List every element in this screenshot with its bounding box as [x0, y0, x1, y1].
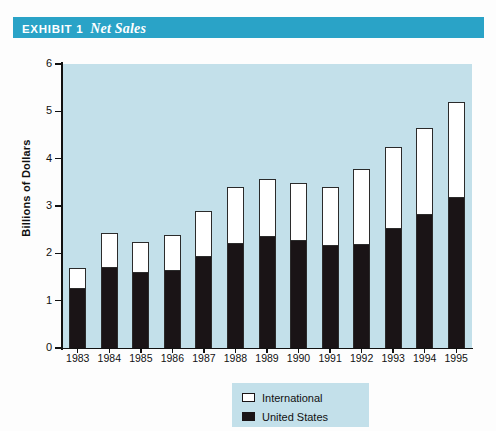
bar-segment-united-states [259, 237, 276, 348]
x-axis-tick-label: 1995 [436, 352, 476, 364]
bar-segment-united-states [164, 271, 181, 348]
bar-group [195, 64, 212, 348]
y-axis-tick-label: 6 [12, 57, 52, 69]
bar-group [322, 64, 339, 348]
bar-segment-international [132, 242, 149, 273]
bar-group [448, 64, 465, 348]
y-axis-tick [55, 300, 61, 301]
bar-segment-international [322, 187, 339, 246]
bar-segment-united-states [322, 246, 339, 348]
y-axis-tick-label: 3 [12, 199, 52, 211]
y-axis-tick [55, 111, 61, 112]
bar-segment-international [69, 268, 86, 289]
bar-group [132, 64, 149, 348]
bar-segment-international [195, 211, 212, 257]
y-axis-tick-label: 5 [12, 104, 52, 116]
legend-label-united-states: United States [262, 411, 328, 423]
bar-segment-international [448, 102, 465, 198]
legend-label-international: International [262, 392, 323, 404]
bar-segment-international [290, 183, 307, 240]
bar-segment-international [353, 169, 370, 245]
y-axis-tick-label: 0 [12, 341, 52, 353]
net-sales-bar-chart: 0123456 19831984198519861987198819891990… [0, 0, 496, 431]
y-axis-tick-label: 4 [12, 152, 52, 164]
bar-segment-united-states [227, 244, 244, 348]
bar-segment-international [416, 128, 433, 216]
bar-segment-united-states [101, 268, 118, 348]
bar-group [290, 64, 307, 348]
bar-segment-international [164, 235, 181, 271]
bar-segment-united-states [290, 241, 307, 348]
white-square-icon [242, 393, 255, 402]
y-axis-tick [55, 253, 61, 254]
y-axis-tick [55, 63, 61, 64]
page-canvas: EXHIBIT 1 Net Sales 0123456 198319841985… [0, 0, 496, 431]
legend-item-international: International [242, 389, 369, 406]
y-axis-tick-label: 1 [12, 294, 52, 306]
bar-segment-international [385, 147, 402, 229]
y-axis-line [61, 62, 63, 350]
bar-group [227, 64, 244, 348]
bar-segment-united-states [132, 273, 149, 348]
bar-group [164, 64, 181, 348]
bar-segment-united-states [448, 198, 465, 348]
y-axis-tick-label: 2 [12, 246, 52, 258]
bar-group [353, 64, 370, 348]
y-axis-tick [55, 205, 61, 206]
chart-legend: International United States [232, 383, 369, 427]
y-axis-tick [55, 347, 61, 348]
bar-segment-united-states [416, 215, 433, 348]
bar-group [385, 64, 402, 348]
legend-item-united-states: United States [242, 408, 369, 425]
bar-segment-international [227, 187, 244, 244]
bar-segment-international [101, 233, 118, 268]
bar-segment-united-states [385, 229, 402, 348]
y-axis-tick [55, 158, 61, 159]
bar-group [69, 64, 86, 348]
bar-segment-united-states [353, 245, 370, 348]
bar-group [259, 64, 276, 348]
bar-group [101, 64, 118, 348]
bar-group [416, 64, 433, 348]
bar-segment-united-states [195, 257, 212, 348]
y-axis-title: Billions of Dollars [20, 118, 32, 258]
bar-segment-united-states [69, 289, 86, 348]
bar-segment-international [259, 179, 276, 237]
black-square-icon [242, 412, 255, 421]
